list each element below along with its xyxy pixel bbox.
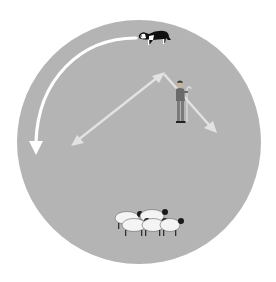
herding-diagram	[0, 0, 276, 282]
diagram-canvas	[0, 0, 276, 282]
